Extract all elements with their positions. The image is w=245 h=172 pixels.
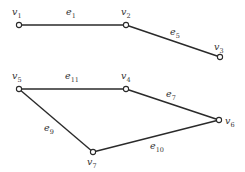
vertex-v6 <box>216 117 221 122</box>
vertex-v4 <box>123 86 128 91</box>
vertice-label-v3: v3 <box>214 41 224 55</box>
vertice-label-v4: v4 <box>121 70 131 84</box>
vertex-v1 <box>16 22 21 27</box>
edge-label-e11: e11 <box>65 70 79 84</box>
edge-label-e1: e1 <box>66 6 76 20</box>
edge-label-e5: e5 <box>170 26 180 40</box>
graph-svg: e1e5e11e7e9e10v1v2v3v4v5v6v7 <box>0 0 245 172</box>
edge-label-e7: e7 <box>166 88 176 102</box>
edge-e9 <box>19 89 93 152</box>
vertice-label-v6: v6 <box>225 115 235 129</box>
graph-diagram: e1e5e11e7e9e10v1v2v3v4v5v6v7 <box>0 0 245 172</box>
edge-label-e10: e10 <box>150 140 164 154</box>
vertex-v7 <box>90 149 95 154</box>
vertice-label-v5: v5 <box>12 70 22 84</box>
vertex-v2 <box>123 22 128 27</box>
edge-label-e9: e9 <box>44 122 54 136</box>
vertex-v3 <box>217 54 222 59</box>
vertex-v5 <box>16 86 21 91</box>
vertice-label-v2: v2 <box>121 6 131 20</box>
vertice-label-v7: v7 <box>87 156 97 170</box>
vertice-label-v1: v1 <box>12 6 22 20</box>
